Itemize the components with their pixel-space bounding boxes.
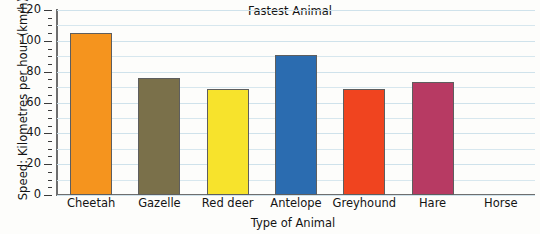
y-tick-major	[44, 41, 52, 42]
bar-chart: Fastest Animal Speed: Kilometres per hou…	[0, 0, 540, 234]
plot-area	[57, 10, 535, 195]
bar-gazelle	[138, 78, 180, 195]
x-axis-title: Type of Animal	[0, 216, 540, 230]
bar-greyhound	[343, 89, 385, 195]
y-tick-minor	[48, 172, 52, 173]
y-tick-label: 100	[19, 35, 41, 47]
y-tick-label: 20	[26, 158, 41, 170]
y-tick-minor	[48, 149, 52, 150]
y-tick-minor	[48, 95, 52, 96]
y-tick-minor	[48, 187, 52, 188]
y-axis-ticks: 020406080100120	[0, 0, 57, 234]
y-tick-major	[44, 72, 52, 73]
x-tick-label-horse: Horse	[484, 198, 517, 210]
y-tick-minor	[48, 25, 52, 26]
y-tick-minor	[48, 79, 52, 80]
y-tick-minor	[48, 156, 52, 157]
y-tick-major	[44, 164, 52, 165]
x-tick-label-greyhound: Greyhound	[333, 198, 396, 210]
bar-hare	[412, 82, 454, 195]
y-tick-minor	[48, 126, 52, 127]
y-tick-label: 60	[26, 97, 41, 109]
bar-cheetah	[70, 33, 112, 195]
y-tick-major	[44, 133, 52, 134]
y-tick-minor	[48, 87, 52, 88]
x-tick-label-hare: Hare	[419, 198, 446, 210]
x-tick-label-cheetah: Cheetah	[67, 198, 115, 210]
y-tick-minor	[48, 33, 52, 34]
y-tick-major	[44, 10, 52, 11]
y-tick-major	[44, 195, 52, 196]
x-tick-label-antelope: Antelope	[270, 198, 321, 210]
y-tick-minor	[48, 18, 52, 19]
x-tick-label-gazelle: Gazelle	[138, 198, 181, 210]
bar-antelope	[275, 55, 317, 195]
bar-red-deer	[207, 89, 249, 195]
y-tick-minor	[48, 141, 52, 142]
y-tick-minor	[48, 64, 52, 65]
y-tick-minor	[48, 118, 52, 119]
y-tick-label: 80	[26, 66, 41, 78]
y-tick-major	[44, 103, 52, 104]
y-tick-minor	[48, 110, 52, 111]
y-tick-label: 120	[19, 4, 41, 16]
y-tick-label: 40	[26, 128, 41, 140]
x-axis-category-labels: CheetahGazelleRed deerAntelopeGreyhoundH…	[57, 198, 535, 218]
y-tick-minor	[48, 56, 52, 57]
y-tick-label: 0	[34, 189, 41, 201]
y-tick-minor	[48, 49, 52, 50]
x-tick-label-red-deer: Red deer	[202, 198, 254, 210]
y-tick-minor	[48, 180, 52, 181]
bar-series	[57, 10, 535, 195]
